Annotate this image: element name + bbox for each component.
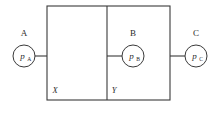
node-label-c: C	[193, 28, 199, 38]
gauge-symbol-b: p	[128, 51, 134, 61]
gauge-subscript-b: B	[136, 56, 140, 62]
gauge-subscript-c: C	[199, 56, 203, 62]
pressure-vessel-diagram: p A A p B B p C C X Y	[0, 0, 220, 115]
region-label-x: X	[51, 85, 58, 95]
diagram-canvas: p A A p B B p C C X Y	[0, 0, 220, 115]
node-label-b: B	[130, 28, 136, 38]
gauge-symbol-c: p	[191, 51, 197, 61]
region-label-y: Y	[112, 85, 118, 95]
gauge-subscript-a: A	[27, 56, 31, 62]
gauge-symbol-a: p	[19, 51, 25, 61]
vessel-outer-wall	[47, 6, 170, 100]
node-label-a: A	[21, 28, 28, 38]
